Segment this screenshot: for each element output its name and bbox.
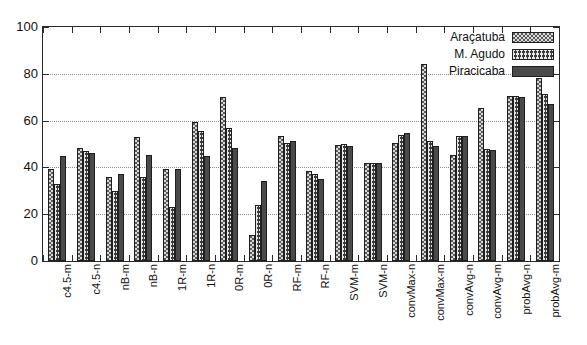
x-axis-tick-label: c4.5-m <box>62 264 73 298</box>
y-axis-tick-label: 0 <box>4 254 38 267</box>
bar-group <box>77 27 95 261</box>
bar-group <box>306 27 324 261</box>
bar <box>232 148 238 261</box>
legend-swatch <box>512 66 554 77</box>
legend-label: Araçatuba <box>450 31 505 44</box>
y-axis: 020406080100 <box>0 26 38 262</box>
y-axis-tick-label: 100 <box>4 20 38 33</box>
x-axis-tick-label: c4.5-n <box>91 264 102 295</box>
x-axis: c4.5-mc4.5-nnB-mnB-n1R-m1R-n0R-m0R-nRF-m… <box>43 264 559 344</box>
bar-group <box>249 27 267 261</box>
axis-tick <box>553 261 559 262</box>
legend-item: Piracicaba <box>398 63 554 79</box>
y-axis-tick-label: 40 <box>4 160 38 173</box>
bar-group <box>48 27 66 261</box>
bar <box>175 169 181 261</box>
bar <box>89 153 95 261</box>
x-axis-tick-label: convMax-n <box>406 264 417 318</box>
bar <box>433 146 439 261</box>
bar <box>261 181 267 261</box>
x-axis-tick-label: probAvg-m <box>550 264 561 318</box>
bar-chart: 020406080100 c4.5-mc4.5-nnB-mnB-n1R-m1R-… <box>0 0 587 345</box>
y-axis-tick-label: 20 <box>4 207 38 220</box>
bar-group <box>335 27 353 261</box>
x-axis-tick-label: RF-n <box>320 264 331 288</box>
x-axis-tick-label: nB-m <box>120 264 131 290</box>
x-axis-tick-label: probAvg-n <box>521 264 532 315</box>
bar <box>490 150 496 261</box>
x-axis-tick-label: convMax-m <box>435 264 446 321</box>
x-axis-tick-label: 0R-n <box>263 264 274 288</box>
x-axis-tick-label: convAvg-n <box>464 264 475 316</box>
x-axis-tick-label: SVM-n <box>378 264 389 298</box>
axis-tick <box>559 255 560 261</box>
bar-group <box>364 27 382 261</box>
bar <box>204 156 210 261</box>
bar-group <box>163 27 181 261</box>
legend-swatch <box>512 32 554 43</box>
bar <box>519 97 525 261</box>
bar <box>376 163 382 261</box>
x-axis-tick-label: nB-n <box>148 264 159 287</box>
bar <box>146 155 152 261</box>
bar <box>548 104 554 261</box>
bar <box>347 146 353 261</box>
legend: AraçatubaM. AgudoPiracicaba <box>398 29 554 80</box>
y-axis-tick-label: 60 <box>4 114 38 127</box>
axis-tick <box>43 261 49 262</box>
bar <box>118 174 124 261</box>
bar-group <box>106 27 124 261</box>
bar <box>404 133 410 261</box>
bar-group <box>278 27 296 261</box>
legend-label: Piracicaba <box>449 65 505 78</box>
x-axis-tick-label: 1R-n <box>206 264 217 288</box>
bar-group <box>220 27 238 261</box>
x-axis-tick-label: convAvg-m <box>492 264 503 319</box>
legend-swatch <box>512 49 554 60</box>
bar <box>318 179 324 261</box>
bar <box>462 136 468 261</box>
legend-label: M. Agudo <box>454 48 505 61</box>
bar <box>290 141 296 262</box>
x-axis-tick-label: RF-m <box>292 264 303 292</box>
x-axis-tick-label: 0R-m <box>234 264 245 291</box>
legend-item: Araçatuba <box>398 29 554 45</box>
bar-group <box>134 27 152 261</box>
bar <box>60 156 66 261</box>
axis-tick <box>559 27 560 33</box>
x-axis-tick-label: SVM-m <box>349 264 360 301</box>
x-axis-tick-label: 1R-m <box>177 264 188 291</box>
bar-group <box>192 27 210 261</box>
y-axis-tick-label: 80 <box>4 67 38 80</box>
legend-item: M. Agudo <box>398 46 554 62</box>
